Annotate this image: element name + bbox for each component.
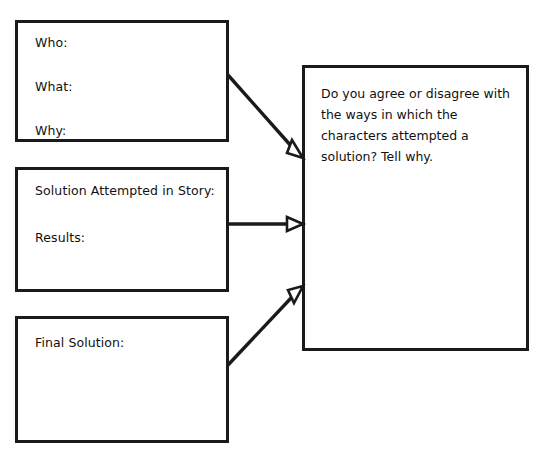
prompt-box: Do you agree or disagree with the ways i… [302, 65, 529, 351]
solution-attempted-label: Solution Attempted in Story: [35, 183, 215, 198]
results-label: Results: [35, 230, 85, 245]
arrow-final-to-prompt-head [288, 286, 303, 303]
final-solution-label: Final Solution: [35, 335, 124, 350]
arrow-who-to-prompt-head [287, 140, 303, 158]
final-solution-box: Final Solution: [15, 316, 229, 443]
prompt-text: Do you agree or disagree with the ways i… [321, 83, 512, 167]
worksheet-canvas: Who: What: Why: Solution Attempted in St… [0, 0, 559, 456]
arrow-attempt-to-prompt-head [287, 217, 303, 231]
who-label: Who: [35, 35, 68, 50]
solution-attempted-box: Solution Attempted in Story: Results: [15, 167, 229, 292]
what-label: What: [35, 79, 73, 94]
why-label: Why: [35, 123, 66, 138]
arrow-who-to-prompt-line [228, 75, 292, 147]
arrow-final-to-prompt-line [228, 297, 292, 365]
who-what-why-box: Who: What: Why: [15, 20, 229, 142]
